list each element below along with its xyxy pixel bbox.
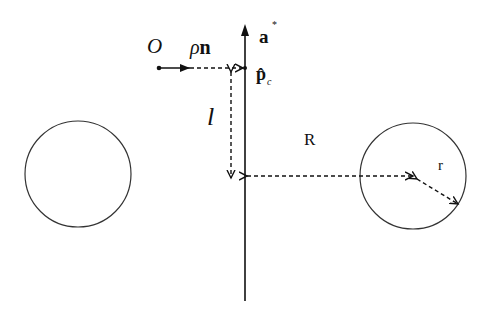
r-dimension-arrow — [417, 179, 458, 204]
diagram-canvas — [0, 0, 489, 313]
axis-a-label: a — [259, 27, 269, 46]
rho-symbol: ρ — [190, 36, 200, 58]
r-label: r — [438, 158, 443, 173]
R-label: R — [304, 131, 315, 148]
pc-label: p̂ — [256, 65, 266, 83]
rho-n-label: ρn — [190, 37, 211, 57]
axis-arrowhead-icon — [241, 24, 249, 36]
left-circle — [25, 121, 131, 227]
l-label: l — [207, 104, 214, 130]
axis-a-superscript: * — [272, 20, 277, 30]
pc-subscript: c — [267, 77, 271, 87]
origin-label: O — [147, 36, 162, 57]
pc-point — [243, 66, 247, 70]
n-symbol: n — [200, 36, 211, 58]
